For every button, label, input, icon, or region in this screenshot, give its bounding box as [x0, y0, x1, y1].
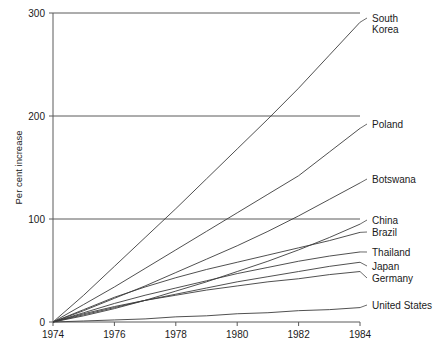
leader-lines-group — [360, 18, 367, 308]
series-line-poland — [53, 128, 360, 322]
series-labels-group: SouthKoreaPolandBotswanaChinaBrazilThail… — [372, 13, 432, 311]
x-tick-label-1980: 1980 — [226, 329, 249, 340]
series-line-botswana — [53, 183, 360, 322]
leader-line-japan — [360, 262, 367, 266]
x-tick-label-1978: 1978 — [165, 329, 188, 340]
series-label-germany: Germany — [372, 273, 413, 284]
y-tick-label-100: 100 — [28, 214, 45, 225]
series-label-line: South — [372, 13, 398, 24]
x-tick-label-1974: 1974 — [42, 329, 65, 340]
series-label-south-korea: SouthKorea — [372, 13, 399, 35]
y-tick-label-200: 200 — [28, 111, 45, 122]
y-axis-title-group: Per cent increase — [13, 131, 24, 205]
chart-container: 0100200300 197419761978198019821984 Sout… — [0, 0, 441, 351]
series-label-line: Brazil — [372, 227, 397, 238]
series-label-japan: Japan — [372, 261, 399, 272]
series-label-china: China — [372, 215, 399, 226]
leader-line-china — [360, 220, 367, 224]
leader-line-south-korea — [360, 18, 367, 22]
series-label-line: China — [372, 215, 399, 226]
y-tick-label-300: 300 — [28, 8, 45, 19]
leader-line-poland — [360, 124, 367, 128]
x-tick-label-1984: 1984 — [349, 329, 372, 340]
series-line-japan — [53, 262, 360, 322]
tick-marks-group — [49, 13, 360, 326]
series-line-china — [53, 224, 360, 322]
series-label-brazil: Brazil — [372, 227, 397, 238]
axes-group — [53, 13, 360, 322]
x-tick-label-1976: 1976 — [103, 329, 126, 340]
y-tick-label-0: 0 — [39, 317, 45, 328]
leader-line-germany — [360, 272, 367, 278]
leader-line-united-states — [360, 305, 367, 308]
series-label-thailand: Thailand — [372, 247, 410, 258]
series-label-line: Botswana — [372, 174, 416, 185]
series-label-line: Thailand — [372, 247, 410, 258]
line-chart: 0100200300 197419761978198019821984 Sout… — [0, 0, 441, 351]
y-tick-labels-group: 0100200300 — [28, 8, 45, 328]
series-label-line: Korea — [372, 24, 399, 35]
series-label-line: Japan — [372, 261, 399, 272]
series-label-line: Poland — [372, 119, 403, 130]
series-lines-group — [53, 22, 360, 322]
x-tick-label-1982: 1982 — [287, 329, 310, 340]
series-label-botswana: Botswana — [372, 174, 416, 185]
series-label-line: United States — [372, 300, 432, 311]
series-label-united-states: United States — [372, 300, 432, 311]
x-tick-labels-group: 197419761978198019821984 — [42, 329, 372, 340]
y-axis-title: Per cent increase — [13, 131, 24, 205]
gridlines-group — [53, 13, 360, 219]
series-label-line: Germany — [372, 273, 413, 284]
series-label-poland: Poland — [372, 119, 403, 130]
series-line-germany — [53, 272, 360, 322]
leader-line-botswana — [360, 179, 367, 183]
